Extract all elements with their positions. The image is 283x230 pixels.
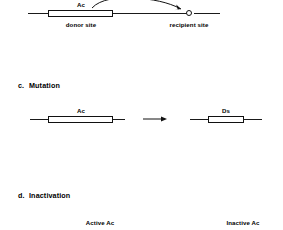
panel-transposition: Ac donor site recipient site bbox=[0, 0, 283, 36]
mutation-dna-line-left-after bbox=[190, 119, 209, 120]
donor-site-label: donor site bbox=[66, 21, 96, 28]
recipient-site-label: recipient site bbox=[170, 21, 209, 28]
inactive-ac-label: Inactive Ac bbox=[226, 219, 259, 226]
figure-root: Ac donor site recipient site c. Mutation… bbox=[0, 0, 283, 230]
panel-mutation: c. Mutation Ac Ds bbox=[0, 78, 283, 133]
mutation-transform-arrow bbox=[0, 78, 283, 133]
ds-element-label-after: Ds bbox=[222, 107, 230, 114]
inactivation-heading: d. Inactivation bbox=[18, 191, 70, 200]
inactivation-marker: d. bbox=[18, 191, 29, 200]
active-ac-label: Active Ac bbox=[86, 219, 114, 226]
mutation-dna-line-right-after bbox=[243, 119, 262, 120]
transposition-arrow bbox=[0, 0, 283, 36]
inactivation-heading-text: Inactivation bbox=[29, 191, 70, 200]
panel-inactivation: d. Inactivation Active Ac Inactive Ac bbox=[0, 188, 283, 230]
ds-element-box-after bbox=[208, 116, 244, 123]
